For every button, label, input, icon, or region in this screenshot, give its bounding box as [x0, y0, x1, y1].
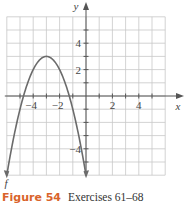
figure-description: Exercises 61–68 — [68, 191, 144, 203]
figure-number: Figure 54 — [2, 191, 61, 204]
x-tick-label: 2 — [110, 99, 116, 111]
figure-caption: Figure 54 Exercises 61–68 — [2, 191, 144, 204]
x-axis-label: x — [175, 100, 181, 112]
x-tick-label: 4 — [136, 99, 142, 111]
y-axis-label: y — [73, 0, 79, 12]
x-tick-label: −2 — [52, 99, 64, 111]
y-tick-label: 4 — [76, 37, 82, 49]
y-axis-arrow-icon — [83, 2, 89, 10]
y-tick-label: 2 — [76, 64, 82, 76]
y-tick-label: −4 — [69, 143, 81, 155]
x-tick-label: −4 — [25, 99, 37, 111]
function-graph: −4−22442−4xyf — [0, 0, 189, 190]
axes — [5, 2, 184, 175]
tick-labels: −4−22442−4xyf — [4, 0, 180, 189]
x-axis-arrow-icon — [176, 93, 184, 99]
right-end-arrow-icon — [84, 170, 90, 178]
curve-label-f: f — [4, 177, 9, 189]
